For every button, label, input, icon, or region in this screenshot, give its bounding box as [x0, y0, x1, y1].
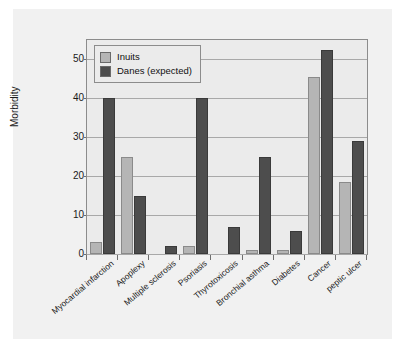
x-axis-label: Cancer [306, 259, 332, 283]
bar [165, 246, 177, 254]
figure-panel: Morbidity 01020304050 Myocardial infarct… [13, 9, 392, 339]
bar [352, 141, 364, 254]
bar [339, 182, 351, 254]
bar [121, 157, 133, 254]
bar [134, 196, 146, 254]
y-tick-label: 40 [62, 93, 84, 103]
bar [259, 157, 271, 254]
chart-legend: InuitsDanes (expected) [94, 45, 201, 83]
bar [308, 77, 320, 254]
legend-item: Inuits [100, 50, 192, 64]
bar [290, 231, 302, 254]
bar [228, 227, 240, 254]
legend-label: Inuits [117, 52, 140, 62]
y-tick-label: 30 [62, 132, 84, 142]
y-tick-label: 0 [62, 249, 84, 259]
chart-figure: Morbidity 01020304050 Myocardial infarct… [0, 0, 405, 348]
bar [277, 250, 289, 254]
bar [321, 50, 333, 254]
legend-item: Danes (expected) [100, 64, 192, 78]
y-axis-ticks: 01020304050 [58, 39, 84, 255]
legend-swatch-icon [100, 66, 111, 77]
y-tick-label: 10 [62, 210, 84, 220]
x-axis-label: Diabetes [271, 259, 302, 287]
y-tick-label: 20 [62, 171, 84, 181]
x-axis-labels: Myocardial infarctionApoplexyMultiple sc… [86, 259, 386, 348]
y-tick-label: 50 [62, 54, 84, 64]
legend-swatch-icon [100, 52, 111, 63]
bar [183, 246, 195, 254]
bar [196, 98, 208, 254]
legend-label: Danes (expected) [117, 66, 192, 76]
bar [103, 98, 115, 254]
x-axis-label: Myocardial infarction [50, 259, 115, 316]
bar [246, 250, 258, 254]
bar [90, 242, 102, 254]
y-axis-title: Morbidity [9, 86, 20, 127]
